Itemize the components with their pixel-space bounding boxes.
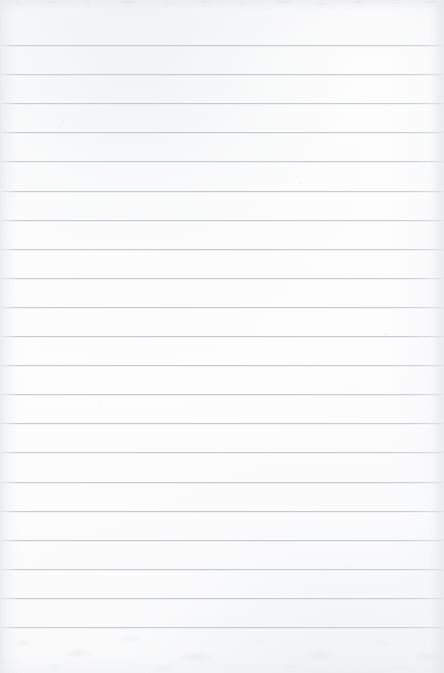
ruled-lines-group xyxy=(0,0,444,673)
rule-line xyxy=(0,74,444,75)
rule-line xyxy=(0,336,444,337)
rule-line xyxy=(0,307,444,308)
rule-line xyxy=(0,598,444,599)
rule-line xyxy=(0,482,444,483)
rule-line xyxy=(0,452,444,453)
rule-line xyxy=(0,161,444,162)
scan-grain-bottom-margin xyxy=(0,627,444,673)
rule-line xyxy=(0,249,444,250)
rule-line xyxy=(0,220,444,221)
rule-line xyxy=(0,278,444,279)
rule-line xyxy=(0,540,444,541)
rule-line xyxy=(0,569,444,570)
rule-line xyxy=(0,394,444,395)
rule-line xyxy=(0,365,444,366)
rule-line xyxy=(0,423,444,424)
rule-line xyxy=(0,45,444,46)
rule-line xyxy=(0,191,444,192)
rule-line xyxy=(0,103,444,104)
scanned-notebook-page xyxy=(0,0,444,673)
rule-line xyxy=(0,132,444,133)
rule-line xyxy=(0,511,444,512)
